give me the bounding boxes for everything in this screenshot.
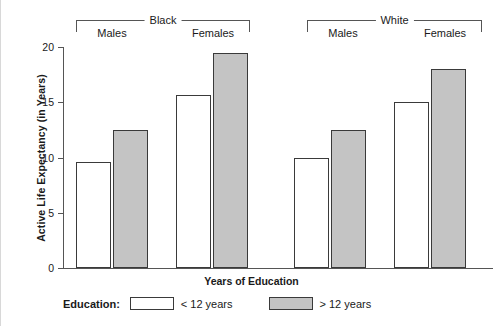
- x-axis-title: Years of Education: [1, 275, 501, 287]
- bar-black-males-gt12: [113, 130, 148, 268]
- y-tick-label-0: 0: [48, 262, 54, 274]
- subgroup-label-black-males: Males: [97, 27, 126, 39]
- y-tick-5: 5: [58, 213, 63, 214]
- group-label-black: Black: [145, 14, 182, 26]
- y-tick-10: 10: [58, 158, 63, 159]
- legend-swatch-light-icon: [130, 297, 174, 310]
- x-axis-line: [63, 268, 493, 269]
- legend-label-gt-12: > 12 years: [320, 298, 372, 310]
- y-axis-line: [63, 47, 64, 268]
- bar-black-males-lt12: [76, 162, 111, 268]
- y-tick-20: 20: [58, 47, 63, 48]
- y-tick-0: 0: [58, 268, 63, 269]
- plot-area: 05101520: [63, 47, 493, 268]
- y-tick-label-20: 20: [42, 41, 54, 53]
- legend-item-gt-12[interactable]: > 12 years: [269, 297, 372, 310]
- legend-label-lt-12: < 12 years: [181, 298, 233, 310]
- y-tick-label-5: 5: [48, 207, 54, 219]
- subgroup-label-white-females: Females: [424, 27, 466, 39]
- legend-title: Education:: [63, 298, 120, 310]
- legend: Education: < 12 years > 12 years: [63, 297, 371, 310]
- bar-white-males-lt12: [294, 158, 329, 269]
- y-tick-label-10: 10: [42, 152, 54, 164]
- subgroup-label-white-males: Males: [328, 27, 357, 39]
- bar-black-females-gt12: [213, 53, 248, 268]
- legend-swatch-dark-icon: [269, 297, 313, 310]
- bar-white-females-gt12: [431, 69, 466, 268]
- subgroup-label-black-females: Females: [192, 27, 234, 39]
- group-label-white: White: [375, 14, 413, 26]
- y-tick-label-15: 15: [42, 96, 54, 108]
- bar-chart-figure: Active Life Expectancy (in Years) Black …: [0, 0, 501, 326]
- bar-white-males-gt12: [331, 130, 366, 268]
- legend-item-lt-12[interactable]: < 12 years: [130, 297, 233, 310]
- y-tick-15: 15: [58, 102, 63, 103]
- bar-black-females-lt12: [176, 95, 211, 268]
- bar-white-females-lt12: [394, 102, 429, 268]
